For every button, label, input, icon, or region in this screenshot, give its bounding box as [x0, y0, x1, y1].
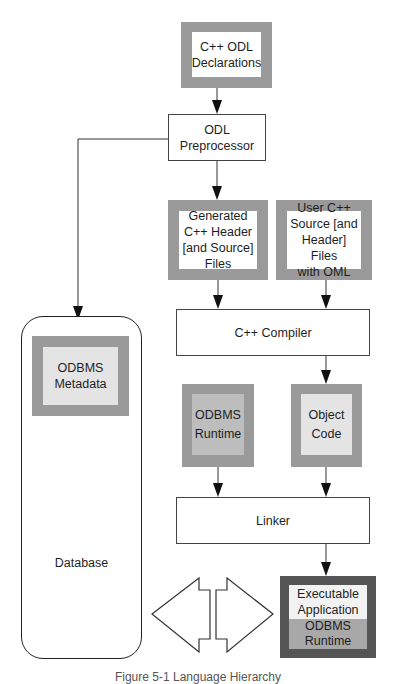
linker-label: Linker: [256, 513, 290, 529]
exe-runtime-line1: ODBMS: [305, 619, 351, 634]
generated-line1: Generated: [188, 208, 247, 224]
object-code-line1: Object: [308, 406, 344, 425]
odl-preprocessor-node: ODL Preprocessor: [168, 114, 266, 161]
left-arrow-icon: [152, 578, 210, 652]
odl-declarations-node: C++ ODL Declarations: [181, 22, 272, 88]
generated-line3: [and Source]: [183, 240, 254, 256]
exe-runtime-line2: Runtime: [305, 634, 352, 649]
odbms-metadata-node: ODBMS Metadata: [32, 336, 129, 416]
metadata-line1: ODBMS: [58, 360, 104, 376]
user-source-node: User C++ Source [and Header] Files with …: [276, 200, 372, 280]
executable-application-node: Executable Application ODBMS Runtime: [280, 576, 376, 658]
odl-preprocessor-line1: ODL: [204, 122, 230, 138]
bidirectional-arrows: [152, 578, 273, 652]
odbms-runtime-node: ODBMS Runtime: [182, 384, 254, 467]
right-arrow-icon: [216, 578, 273, 652]
linker-node: Linker: [176, 497, 370, 544]
object-code-line2: Code: [312, 425, 342, 444]
odl-declarations-line1: C++ ODL: [200, 39, 253, 55]
executable-line2: Application: [297, 602, 358, 618]
user-source-line2: Source [and: [290, 216, 357, 232]
executable-section: Executable Application: [289, 585, 367, 619]
generated-header-node: Generated C++ Header [and Source] Files: [168, 200, 268, 280]
user-source-line4: with OML: [298, 264, 351, 280]
odl-declarations-line2: Declarations: [192, 55, 261, 71]
generated-line4: Files: [205, 256, 231, 272]
cpp-compiler-label: C++ Compiler: [234, 325, 311, 341]
cpp-compiler-node: C++ Compiler: [176, 309, 370, 356]
user-source-line1: User C++: [297, 200, 351, 216]
database-label: Database: [21, 556, 142, 570]
figure-caption: Figure 5-1 Language Hierarchy: [0, 670, 396, 684]
executable-line1: Executable: [297, 586, 359, 602]
odl-preprocessor-line2: Preprocessor: [180, 138, 254, 154]
generated-line2: C++ Header: [184, 224, 252, 240]
runtime-line1: ODBMS: [195, 406, 241, 425]
runtime-line2: Runtime: [195, 425, 242, 444]
metadata-line2: Metadata: [54, 376, 106, 392]
user-source-line3: Header] Files: [287, 232, 361, 264]
object-code-node: Object Code: [291, 384, 362, 467]
runtime-section: ODBMS Runtime: [289, 619, 367, 649]
